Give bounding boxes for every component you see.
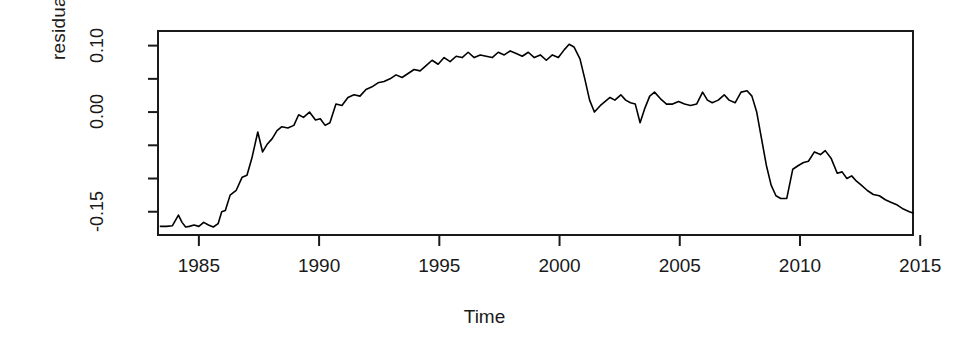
series-line-residual-ts xyxy=(160,44,913,227)
residual-timeseries-chart: residual.ts Time 0.100.00-0.15 198519901… xyxy=(0,0,969,355)
plot-box-border xyxy=(158,31,913,235)
plot-canvas xyxy=(0,0,969,355)
x-tick-label-0: 1985 xyxy=(154,255,244,277)
x-tick-label-2: 1995 xyxy=(394,255,484,277)
y-tick-label-2: 0.00 xyxy=(87,67,108,157)
axis-group xyxy=(148,31,920,246)
x-tick-label-4: 2005 xyxy=(635,255,725,277)
x-tick-label-3: 2000 xyxy=(515,255,605,277)
x-tick-label-5: 2010 xyxy=(755,255,845,277)
x-tick-label-1: 1990 xyxy=(274,255,364,277)
y-tick-label-5: -0.15 xyxy=(87,166,108,256)
x-tick-label-6: 2015 xyxy=(875,255,965,277)
